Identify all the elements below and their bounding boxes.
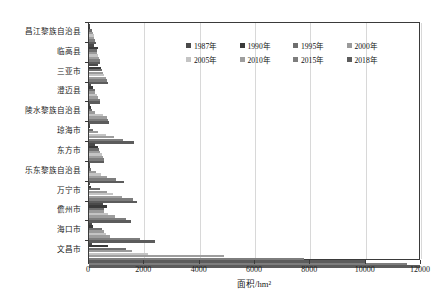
legend-item: 2018年 xyxy=(347,54,401,65)
legend-item: 2010年 xyxy=(240,54,294,65)
x-axis-tick xyxy=(199,260,200,264)
legend-swatch-icon xyxy=(186,57,191,62)
legend-label: 1995年 xyxy=(301,40,324,51)
legend-item: 1987年 xyxy=(186,40,240,51)
x-axis-tick xyxy=(420,260,421,264)
bar xyxy=(89,121,109,123)
x-axis-tick-label: 4000 xyxy=(191,265,207,274)
legend-swatch-icon xyxy=(347,57,352,62)
legend-item: 1995年 xyxy=(293,40,347,51)
bar xyxy=(89,82,108,84)
y-axis-tick-label: 琼海市 xyxy=(57,127,81,135)
x-axis-tick xyxy=(88,260,89,264)
legend-swatch-icon xyxy=(240,57,245,62)
bar xyxy=(89,141,134,143)
legend-swatch-icon xyxy=(293,43,298,48)
legend-label: 2000年 xyxy=(355,40,378,51)
x-axis-tick-label: 6000 xyxy=(246,265,262,274)
y-axis-tick-label: 文昌市 xyxy=(57,246,81,254)
legend-swatch-icon xyxy=(347,43,352,48)
x-axis-tick xyxy=(365,260,366,264)
x-axis-tick-label: 0 xyxy=(86,265,90,274)
bar xyxy=(89,181,124,183)
x-axis-tick xyxy=(254,260,255,264)
legend-item: 1990年 xyxy=(240,40,294,51)
legend-label: 2005年 xyxy=(194,54,217,65)
x-axis-tick-label: 8000 xyxy=(301,265,317,274)
chart-figure: 昌江黎族自治县临高县三亚市澄迈县陵水黎族自治县琼海市东方市乐东黎族自治县万宁市儋… xyxy=(0,0,442,303)
legend-label: 1987年 xyxy=(194,40,217,51)
x-axis-tick-label: 2000 xyxy=(135,265,151,274)
y-axis-tick-label: 儋州市 xyxy=(57,207,81,215)
bar xyxy=(89,101,100,103)
y-axis-tick-label: 乐东黎族自治县 xyxy=(25,167,81,175)
y-axis-labels: 昌江黎族自治县临高县三亚市澄迈县陵水黎族自治县琼海市东方市乐东黎族自治县万宁市儋… xyxy=(0,22,85,260)
y-axis-tick-label: 三亚市 xyxy=(57,68,81,76)
legend-swatch-icon xyxy=(240,43,245,48)
x-axis-tick xyxy=(143,260,144,264)
grid-line xyxy=(144,23,145,259)
y-axis-tick-label: 陵水黎族自治县 xyxy=(25,107,81,115)
legend-label: 2018年 xyxy=(355,54,378,65)
legend-label: 2015年 xyxy=(301,54,324,65)
legend-item: 2005年 xyxy=(186,54,240,65)
y-axis-tick-label: 昌江黎族自治县 xyxy=(25,28,81,36)
legend-label: 2010年 xyxy=(248,54,271,65)
legend-item: 2015年 xyxy=(293,54,347,65)
legend-item: 2000年 xyxy=(347,40,401,51)
chart-legend: 1987年1990年1995年2000年2005年2010年2015年2018年 xyxy=(186,38,400,66)
y-axis-tick-label: 万宁市 xyxy=(57,187,81,195)
y-axis-tick-label: 海口市 xyxy=(57,226,81,234)
x-axis-title: 面积/hm² xyxy=(88,277,420,289)
x-axis-tick xyxy=(309,260,310,264)
x-axis-tick-label: 10000 xyxy=(355,265,375,274)
legend-label: 1990年 xyxy=(248,40,271,51)
x-axis-tick-label: 12000 xyxy=(410,265,430,274)
legend-swatch-icon xyxy=(293,57,298,62)
y-axis-tick-label: 东方市 xyxy=(57,147,81,155)
grid-line xyxy=(421,23,422,259)
bar xyxy=(89,240,155,242)
y-axis-tick-label: 临高县 xyxy=(57,48,81,56)
y-axis-tick-label: 澄迈县 xyxy=(57,88,81,96)
bar xyxy=(89,220,131,222)
bar xyxy=(89,161,104,163)
legend-swatch-icon xyxy=(186,43,191,48)
